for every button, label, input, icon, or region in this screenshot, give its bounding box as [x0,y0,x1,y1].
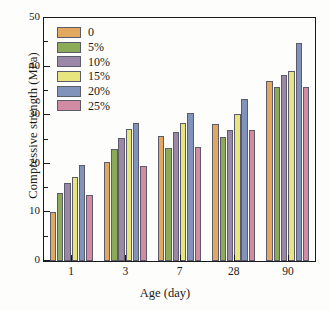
legend-swatch-icon [57,42,81,53]
bar [274,87,280,261]
bar [195,147,201,261]
y-axis-tick-label: 50 [29,10,40,22]
bar [50,212,56,261]
bar [126,129,132,261]
legend-swatch-icon [57,27,81,38]
legend-item-label: 10% [88,56,110,68]
legend-item-label: 25% [88,100,110,112]
bar [79,165,85,261]
bar [57,193,63,261]
y-axis-tick-label: 30 [29,107,40,119]
bar [118,138,124,261]
x-axis-tick-label: 28 [228,265,240,277]
bar [288,71,294,261]
bar [281,75,287,261]
bar [249,130,255,261]
y-axis-minor-tick [44,41,48,42]
legend-swatch-icon [57,100,81,111]
y-axis-tick-label: 40 [29,59,40,71]
legend-item-label: 20% [88,85,110,97]
bar [212,124,218,261]
bar [241,99,247,261]
x-axis-tick-label: 7 [177,265,183,277]
bar [86,195,92,261]
legend-item[interactable]: 15% [57,69,110,84]
x-axis-tick [288,255,289,261]
legend-item[interactable]: 25% [57,98,110,113]
y-axis-tick: 50 [44,17,50,18]
bar [234,114,240,261]
bar [220,137,226,261]
bar [180,123,186,261]
x-axis-tick-label: 90 [282,265,294,277]
legend-item[interactable]: 5% [57,40,110,55]
y-axis-tick: 30 [44,114,50,115]
bar [104,162,110,261]
bar [111,149,117,261]
bar [64,183,70,261]
y-axis-tick-label: 10 [29,204,40,216]
bar [303,87,309,261]
y-axis-minor-tick [44,187,48,188]
legend-swatch-icon [57,56,81,67]
y-axis-tick-label: 0 [35,253,41,265]
bar [227,130,233,261]
bar [173,132,179,261]
bar [158,136,164,261]
y-axis-tick: 40 [44,66,50,67]
y-axis-tick-label: 20 [29,156,40,168]
legend-item-label: 0 [88,26,94,38]
y-axis-minor-tick [44,90,48,91]
legend-swatch-icon [57,71,81,82]
x-axis-tick [180,255,181,261]
legend: 05%10%15%20%25% [53,22,115,116]
x-axis-tick [234,255,235,261]
legend-item[interactable]: 20% [57,84,110,99]
bar [133,123,139,262]
legend-item[interactable]: 0 [57,25,110,40]
x-axis-tick-label: 1 [68,265,74,277]
bar [140,166,146,261]
y-axis-minor-tick [44,139,48,140]
x-axis-tick-label: 3 [122,265,128,277]
x-axis-title: Age (day) [0,286,330,301]
bar [187,113,193,261]
compressive-strength-bar-chart: Compressive strength (MPa) 01020304050 0… [0,0,330,310]
legend-item-label: 5% [88,41,104,53]
y-axis-tick: 20 [44,163,50,164]
bar [165,148,171,261]
legend-item-label: 15% [88,70,110,82]
plot-area: 01020304050 05%10%15%20%25% [43,17,316,262]
legend-swatch-icon [57,86,81,97]
bar [266,81,272,261]
y-axis-minor-tick [44,236,48,237]
bar [296,43,302,261]
x-axis-tick [125,255,126,261]
x-axis-tick [71,255,72,261]
legend-item[interactable]: 10% [57,54,110,69]
bar [72,177,78,261]
